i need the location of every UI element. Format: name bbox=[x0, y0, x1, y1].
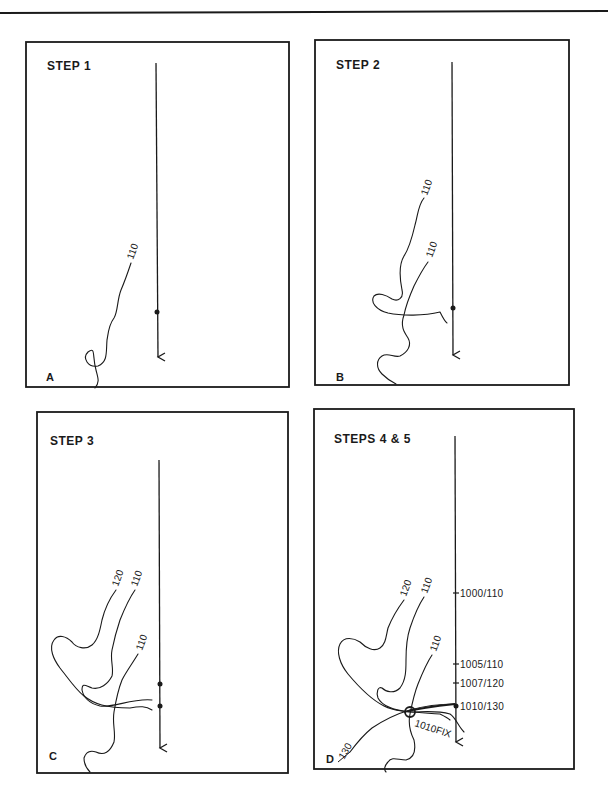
track-mark-label: 1000/110 bbox=[460, 588, 504, 599]
contour-label: 110 bbox=[129, 569, 145, 588]
contour-line-110 bbox=[86, 263, 131, 388]
track-mark-label: 1005/110 bbox=[460, 659, 504, 670]
panel-b-frame bbox=[315, 40, 569, 385]
contour-line-110-b bbox=[84, 654, 138, 772]
panel-a: STEP 1 110 A bbox=[26, 42, 289, 388]
contour-label: 130 bbox=[336, 741, 354, 761]
panel-c-title: STEP 3 bbox=[50, 434, 94, 448]
panel-d-title: STEPS 4 & 5 bbox=[334, 432, 411, 446]
panel-a-title: STEP 1 bbox=[47, 59, 91, 73]
panel-d-frame bbox=[314, 409, 574, 769]
top-rule bbox=[0, 11, 608, 13]
contour-line-110-b bbox=[378, 262, 429, 384]
contour-line-110-a bbox=[377, 597, 464, 732]
panel-b-title: STEP 2 bbox=[336, 58, 380, 72]
contour-label: 110 bbox=[134, 633, 150, 652]
contour-label: 110 bbox=[419, 576, 435, 595]
track-mark-1007: 1007/120 bbox=[453, 678, 504, 689]
contour-label: 110 bbox=[125, 242, 141, 261]
contour-label: 110 bbox=[428, 634, 444, 653]
panel-d: STEPS 4 & 5 1000/110 1005/110 1007/120 1… bbox=[314, 409, 574, 772]
contour-label: 120 bbox=[398, 578, 414, 598]
position-dot bbox=[158, 704, 163, 709]
contour-label: 120 bbox=[110, 568, 126, 588]
position-dot bbox=[155, 310, 160, 315]
track-arrow bbox=[452, 62, 453, 355]
navigation-fix-diagram: STEP 1 110 A STEP 2 110 110 B STEP 3 120… bbox=[0, 0, 608, 805]
contour-label: 110 bbox=[424, 240, 440, 259]
track-mark-1010: 1010/130 bbox=[454, 701, 505, 712]
panel-b: STEP 2 110 110 B bbox=[315, 40, 569, 385]
panel-a-letter: A bbox=[46, 371, 54, 383]
contour-label: 110 bbox=[419, 178, 435, 197]
position-dot bbox=[158, 682, 163, 687]
panel-b-letter: B bbox=[336, 371, 344, 383]
track-mark-1000: 1000/110 bbox=[453, 588, 504, 599]
track-mark-label: 1007/120 bbox=[460, 678, 504, 689]
panel-c-letter: C bbox=[49, 750, 57, 762]
panel-d-letter: D bbox=[326, 753, 334, 765]
track-mark-1005: 1005/110 bbox=[453, 659, 504, 670]
panel-c-frame bbox=[37, 412, 288, 773]
position-dot bbox=[451, 306, 456, 311]
track-arrow bbox=[455, 436, 456, 742]
contour-line-110-a bbox=[373, 198, 447, 323]
track-mark-label: 1010/130 bbox=[460, 701, 504, 712]
panel-c: STEP 3 120 110 110 C bbox=[37, 412, 288, 773]
fix-label: 1010FIX bbox=[413, 717, 453, 739]
contour-line-120 bbox=[338, 600, 450, 720]
